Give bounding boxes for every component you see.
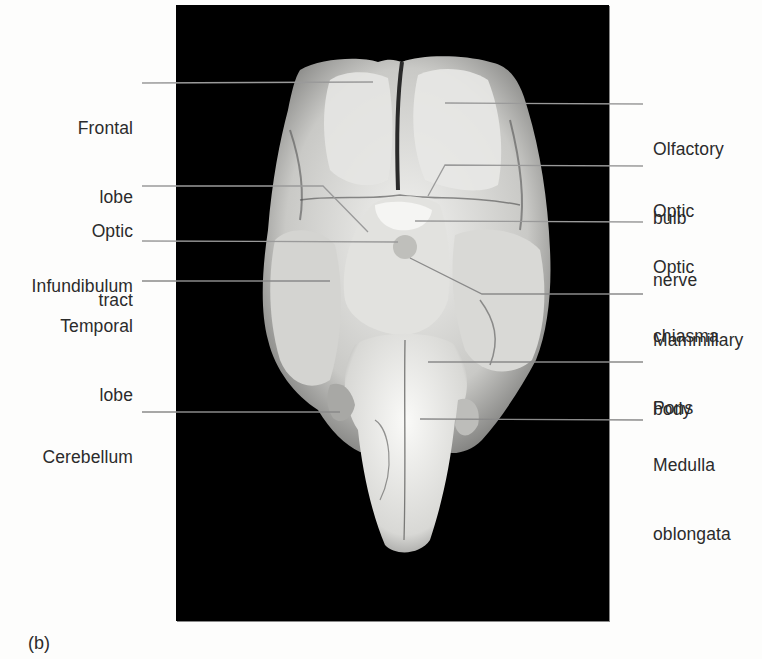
label-cerebellum: Cerebellum: [43, 400, 133, 515]
panel-letter: (b): [28, 633, 50, 654]
label-medulla-oblongata: Medulla oblongata: [653, 408, 731, 592]
brain-figure: Frontal lobe Optic tract Infundibulum Te…: [0, 0, 762, 659]
brainstem-shape: [345, 334, 467, 553]
